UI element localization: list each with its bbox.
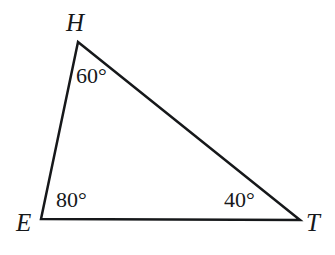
vertex-label-h: H [66,10,85,35]
vertex-label-e: E [16,210,32,235]
triangle-shape [0,0,335,255]
triangle-figure: H E T 60° 80° 40° [0,0,335,255]
angle-label-e: 80° [56,189,87,211]
angle-label-t: 40° [224,189,255,211]
vertex-label-t: T [306,210,320,235]
angle-label-h: 60° [76,65,107,87]
